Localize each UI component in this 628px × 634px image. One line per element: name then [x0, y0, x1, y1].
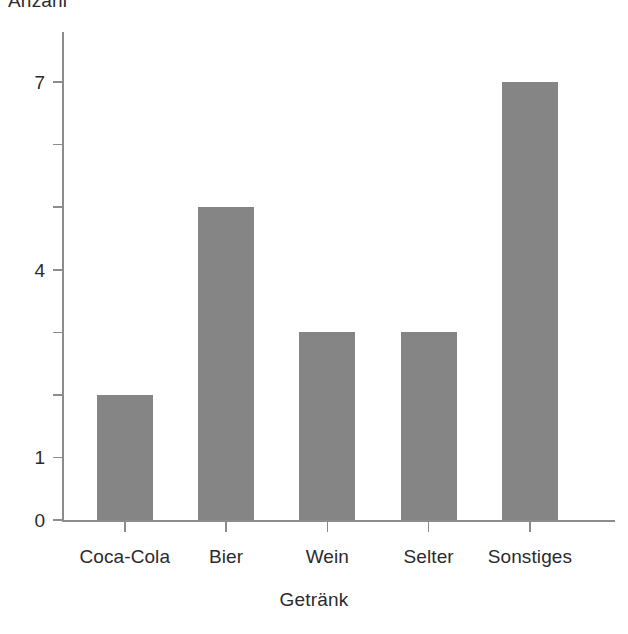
- x-axis-category-label: Sonstiges: [488, 546, 572, 568]
- y-axis-line: [62, 32, 64, 522]
- x-axis-title: Getränk: [0, 589, 628, 611]
- x-axis-category-label: Wein: [306, 546, 349, 568]
- y-axis-tick: [53, 206, 62, 208]
- y-axis-tick-label: 4: [34, 260, 45, 279]
- bar: [299, 332, 355, 520]
- y-axis-tick-label: 1: [34, 448, 45, 467]
- bar: [401, 332, 457, 520]
- bar: [502, 82, 558, 520]
- x-axis-category-label: Bier: [209, 546, 243, 568]
- x-axis-category-label: Coca-Cola: [79, 546, 170, 568]
- plot-area: 0147: [62, 32, 615, 522]
- y-axis-tick: 4: [53, 269, 62, 271]
- bar: [198, 207, 254, 520]
- x-axis-line: [62, 520, 615, 522]
- y-axis-tick: [53, 332, 62, 334]
- y-axis-tick-label: 0: [34, 510, 45, 529]
- x-axis-tick: [225, 522, 227, 532]
- x-axis-tick: [428, 522, 430, 532]
- bar-chart: Anzahl 0147 Coca-ColaBierWeinSelterSonst…: [0, 0, 628, 634]
- y-axis-tick: 1: [53, 457, 62, 459]
- y-axis-tick: 7: [53, 81, 62, 83]
- y-axis-tick: 0: [53, 519, 62, 521]
- x-axis-tick: [529, 522, 531, 532]
- y-axis-tick: [53, 394, 62, 396]
- y-axis-tick: [53, 144, 62, 146]
- y-axis-tick-label: 7: [34, 73, 45, 92]
- y-axis-title: Anzahl: [8, 0, 67, 11]
- x-axis-tick: [124, 522, 126, 532]
- x-axis-category-label: Selter: [404, 546, 454, 568]
- bar: [97, 395, 153, 520]
- x-axis-tick: [327, 522, 329, 532]
